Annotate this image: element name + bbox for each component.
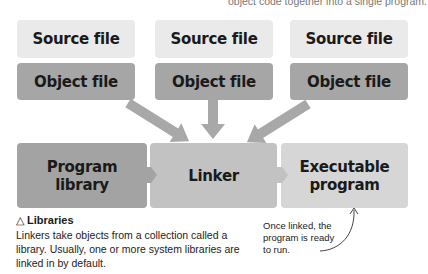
side-note: Once linked, the program is ready to run… [263,220,343,256]
triangle-up-icon: △ [16,214,24,226]
chevron-right-icon [145,167,157,183]
chevron-right-icon [276,167,288,183]
note-title: △ Libraries [16,214,74,227]
note-title-text: Libraries [27,214,73,226]
note-body: Linkers take objects from a collection c… [16,228,256,270]
